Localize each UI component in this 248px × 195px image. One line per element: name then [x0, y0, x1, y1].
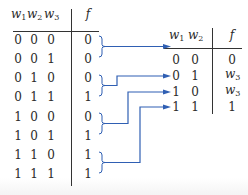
connector-line: [105, 92, 166, 124]
arrowhead-icon: [163, 44, 171, 49]
arrowhead-icon: [163, 90, 171, 95]
connector-line: [105, 76, 166, 86]
brace: [99, 113, 105, 134]
arrowhead-icon: [163, 105, 171, 110]
connector-arrows: [0, 0, 248, 195]
brace: [99, 152, 105, 173]
brace: [99, 75, 105, 96]
arrowhead-icon: [163, 74, 171, 79]
brace: [99, 36, 105, 57]
connector-line: [105, 107, 166, 163]
